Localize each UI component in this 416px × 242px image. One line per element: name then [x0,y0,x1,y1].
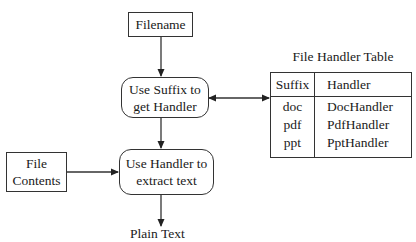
table-row-handler: PptHandler [327,134,389,151]
table-row-suffix: pdf [271,116,314,133]
table-column-divider [314,73,315,157]
plain-text-label: Plain Text [130,225,185,242]
table-row-handler: PdfHandler [327,116,389,133]
file-handler-table: Suffix Handler doc DocHandler pdf PdfHan… [270,72,412,158]
flow-diagram: Filename Use Suffix to get Handler File … [0,0,416,242]
table-header-suffix: Suffix [271,76,314,93]
table-title: File Handler Table [272,49,414,65]
table-row-handler: DocHandler [327,98,393,115]
use-handler-node: Use Handler to extract text [119,149,214,195]
use-handler-line1: Use Handler to [126,155,208,172]
file-contents-line2: Contents [12,172,60,189]
use-suffix-node: Use Suffix to get Handler [121,77,209,118]
table-header-divider [271,96,411,97]
table-header-handler: Handler [327,76,370,93]
file-contents-node: File Contents [6,152,67,192]
file-contents-line1: File [26,155,47,172]
use-suffix-line2: get Handler [133,98,196,115]
table-row-suffix: ppt [271,134,314,151]
filename-node: Filename [128,12,193,37]
filename-label: Filename [135,16,185,33]
use-suffix-line1: Use Suffix to [129,81,201,98]
use-handler-line2: extract text [136,172,196,189]
table-row-suffix: doc [271,98,314,115]
